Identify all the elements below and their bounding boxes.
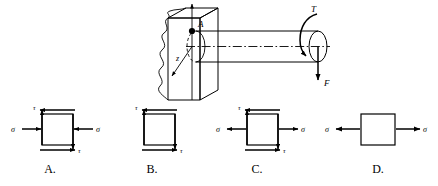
option-c-group[interactable]: τ τ σ σ C. xyxy=(216,104,306,176)
option-c-right-normal-label: σ xyxy=(301,125,306,134)
option-b-top-shear-label: τ xyxy=(135,104,138,112)
option-d-group[interactable]: σ σ D. xyxy=(325,114,428,176)
torque-arrow: T xyxy=(300,4,317,56)
option-d-left-normal-label: σ xyxy=(325,125,330,134)
option-c-bottom-shear-label: τ xyxy=(283,147,286,155)
option-a-group[interactable]: τ τ σ σ A. xyxy=(11,104,101,176)
shaft-diagram-group: A z T F xyxy=(159,4,330,100)
point-a-marker xyxy=(189,28,195,34)
option-d-right-normal-label: σ xyxy=(423,125,428,134)
torque-label: T xyxy=(311,4,317,14)
stress-element-square-b xyxy=(144,114,175,145)
stress-element-square-a xyxy=(42,114,73,145)
option-c-left-normal-label: σ xyxy=(216,125,221,134)
force-arrow: F xyxy=(318,47,330,89)
option-d-label: D. xyxy=(372,162,384,176)
point-a-label: A xyxy=(197,19,204,29)
option-a-bottom-shear-label: τ xyxy=(78,147,81,155)
stress-element-square-d xyxy=(361,114,395,145)
option-a-right-normal-label: σ xyxy=(96,125,101,134)
z-axis-label: z xyxy=(175,54,180,63)
option-b-bottom-shear-label: τ xyxy=(180,147,183,155)
option-a-label: A. xyxy=(44,162,56,176)
option-c-top-shear-label: τ xyxy=(238,104,241,112)
option-b-label: B. xyxy=(146,162,157,176)
z-axis-arrow xyxy=(172,47,192,77)
figure-canvas: A z T F τ τ xyxy=(0,0,438,186)
option-a-top-shear-label: τ xyxy=(33,104,36,112)
force-label: F xyxy=(323,78,330,88)
option-b-group[interactable]: τ τ B. xyxy=(135,104,183,176)
stress-element-square-c xyxy=(247,114,278,145)
mechanics-figure: A z T F τ τ xyxy=(0,0,438,186)
option-c-label: C. xyxy=(251,162,262,176)
option-a-left-normal-label: σ xyxy=(11,125,16,134)
